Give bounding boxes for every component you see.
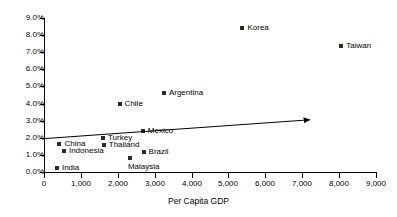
data-point-marker <box>128 156 132 160</box>
data-point-marker <box>101 136 105 140</box>
x-axis-tick <box>192 173 193 178</box>
x-axis-tick-label: 8,000 <box>319 180 359 188</box>
data-point-marker <box>57 142 61 146</box>
data-point-label: Argentina <box>169 89 203 97</box>
y-axis-tick-label: 5.0% <box>10 82 44 90</box>
data-point-label: Brazil <box>149 148 169 156</box>
y-axis-tick-label: 1.0% <box>10 151 44 159</box>
y-axis-tick-label: 2.0% <box>10 134 44 142</box>
data-point-marker <box>162 91 166 95</box>
y-axis-tick-label: 0.0% <box>10 168 44 176</box>
x-axis-tick <box>44 173 45 178</box>
x-axis-line <box>44 172 377 173</box>
x-axis-tick <box>339 173 340 178</box>
x-axis-tick-label: 7,000 <box>282 180 322 188</box>
x-axis-tick <box>376 173 377 178</box>
x-axis-tick-label: 2,000 <box>98 180 138 188</box>
x-axis-tick-label: 6,000 <box>245 180 285 188</box>
data-point-label: Taiwan <box>346 42 371 50</box>
y-axis-tick-label: 4.0% <box>10 100 44 108</box>
data-point-marker <box>102 143 106 147</box>
x-axis-tick <box>228 173 229 178</box>
scatter-chart: 0.0%1.0%2.0%3.0%4.0%5.0%6.0%7.0%8.0%9.0%… <box>0 0 397 217</box>
y-axis-tick-label: 6.0% <box>10 65 44 73</box>
data-point-label: Malaysia <box>128 163 160 171</box>
x-axis-tick <box>265 173 266 178</box>
y-axis-tick-label: 9.0% <box>10 14 44 22</box>
x-axis-tick <box>81 173 82 178</box>
data-point-label: Indonesia <box>69 147 104 155</box>
x-axis-tick-label: 0 <box>24 180 64 188</box>
x-axis-tick-label: 1,000 <box>61 180 101 188</box>
x-axis-tick-label: 4,000 <box>172 180 212 188</box>
x-axis-tick <box>302 173 303 178</box>
x-axis-title: Per Capita GDP <box>0 196 397 206</box>
data-point-marker <box>339 44 343 48</box>
y-axis-tick-label: 7.0% <box>10 48 44 56</box>
data-point-marker <box>118 102 122 106</box>
x-axis-tick-label: 5,000 <box>208 180 248 188</box>
data-point-marker <box>141 129 145 133</box>
x-axis-tick <box>118 173 119 178</box>
data-point-label: Mexico <box>148 127 173 135</box>
data-point-marker <box>240 26 244 30</box>
data-point-label: Korea <box>247 24 268 32</box>
data-point-marker <box>55 166 59 170</box>
x-axis-tick <box>155 173 156 178</box>
data-point-marker <box>142 150 146 154</box>
data-point-marker <box>62 149 66 153</box>
x-axis-tick-label: 3,000 <box>135 180 175 188</box>
plot-area: IndiaChinaIndonesiaTurkeyThailandChileMa… <box>44 18 376 172</box>
data-point-label: India <box>62 164 79 172</box>
y-axis-tick-label: 8.0% <box>10 31 44 39</box>
x-axis-tick-label: 9,000 <box>356 180 396 188</box>
y-axis-tick-label: 3.0% <box>10 117 44 125</box>
data-point-label: Thailand <box>109 141 140 149</box>
data-point-label: Chile <box>125 100 143 108</box>
